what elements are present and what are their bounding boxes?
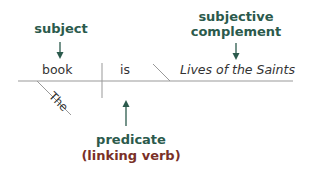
- complement-word: Lives of the Saints: [180, 62, 295, 77]
- verb-word: is: [120, 62, 130, 77]
- predicate-label: predicate: [90, 132, 172, 147]
- predicate-note: (linking verb): [80, 148, 182, 163]
- complement-label-line2: complement: [186, 24, 286, 39]
- complement-divider: [153, 64, 170, 81]
- subject-label: subject: [32, 21, 90, 36]
- complement-arrow-icon: [233, 43, 240, 60]
- predicate-arrow-icon: [123, 100, 130, 126]
- subject-arrow-icon: [57, 42, 64, 59]
- subject-word: book: [42, 62, 72, 77]
- complement-label-line1: subjective: [186, 9, 286, 24]
